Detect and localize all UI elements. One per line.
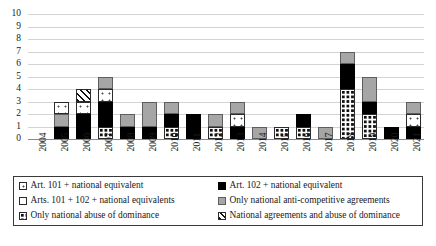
x-axis-tick-label: 2019 bbox=[369, 133, 379, 152]
stacked-bar[interactable] bbox=[76, 89, 91, 139]
bar-segment-art101[interactable] bbox=[230, 114, 245, 127]
bar-segment-art102[interactable] bbox=[164, 114, 179, 127]
x-label-slot: 2014 bbox=[248, 141, 270, 175]
x-label-slot: 2013 bbox=[226, 141, 248, 175]
legend-item-agree[interactable]: Only national anti-competitive agreement… bbox=[218, 194, 417, 209]
x-axis-tick-label: 2013 bbox=[237, 133, 247, 152]
legend-swatch-art102 bbox=[218, 182, 226, 190]
bar-segment-art102[interactable] bbox=[296, 114, 311, 127]
x-axis-tick-label: 2014 bbox=[259, 133, 269, 152]
bar-slot-2009 bbox=[138, 14, 160, 139]
x-label-slot: 2011 bbox=[182, 141, 204, 175]
x-label-slot: 2007 bbox=[94, 141, 116, 175]
bar-segment-agree[interactable] bbox=[54, 114, 69, 127]
bar-segment-agree[interactable] bbox=[406, 102, 421, 115]
plot-area bbox=[28, 14, 424, 139]
legend-item-arts[interactable]: Arts. 101 + 102 + national equivalents bbox=[19, 194, 218, 209]
x-axis-tick-label: 2004 bbox=[39, 133, 49, 152]
x-label-slot: 2018 bbox=[336, 141, 358, 175]
x-axis-tick-label: 2005 bbox=[61, 133, 71, 152]
bar-segment-agree[interactable] bbox=[98, 77, 113, 90]
bar-slot-2007 bbox=[94, 14, 116, 139]
legend-label: Only national abuse of dominance bbox=[31, 211, 160, 220]
bar-segment-agree[interactable] bbox=[340, 52, 355, 65]
chart-root: 012345678910 200420052006200720082009201… bbox=[0, 0, 436, 246]
bar-segment-art102[interactable] bbox=[340, 64, 355, 89]
bar-slot-2017 bbox=[314, 14, 336, 139]
legend-swatch-abuse bbox=[19, 212, 27, 220]
x-axis-tick-label: 2015 bbox=[281, 133, 291, 152]
legend-swatch-art101 bbox=[19, 182, 27, 190]
y-axis-tick-label: 7 bbox=[16, 47, 21, 57]
bar-segment-art101[interactable] bbox=[54, 102, 69, 115]
legend-item-art102[interactable]: Art. 102 + national equivalent bbox=[218, 179, 417, 194]
bar-segment-abuse[interactable] bbox=[340, 89, 355, 139]
legend-label: Art. 102 + national equivalent bbox=[230, 181, 343, 190]
legend-swatch-agree bbox=[218, 197, 226, 205]
x-axis-tick-label: 2020 bbox=[391, 133, 401, 152]
stacked-bar[interactable] bbox=[362, 77, 377, 140]
y-axis-tick-label: 3 bbox=[16, 97, 21, 107]
chart-legend: Art. 101 + national equivalentArt. 102 +… bbox=[13, 176, 423, 226]
x-axis-tick-label: 2008 bbox=[127, 133, 137, 152]
y-axis-tick-label: 5 bbox=[16, 72, 21, 82]
y-axis-tick-label: 9 bbox=[16, 22, 21, 32]
stacked-bar[interactable] bbox=[98, 77, 113, 140]
x-axis-tick-label: 2011 bbox=[193, 133, 203, 152]
bar-slot-2004 bbox=[28, 14, 50, 139]
y-axis-tick-label: 0 bbox=[16, 134, 21, 144]
bar-slot-2011 bbox=[182, 14, 204, 139]
bar-segment-art102[interactable] bbox=[362, 102, 377, 115]
bar-slot-2018 bbox=[336, 14, 358, 139]
bar-slot-2015 bbox=[270, 14, 292, 139]
bar-segment-agree[interactable] bbox=[230, 102, 245, 115]
bar-segment-art101[interactable] bbox=[98, 89, 113, 102]
legend-label: Art. 101 + national equivalent bbox=[31, 181, 144, 190]
bar-segment-agree[interactable] bbox=[208, 114, 223, 127]
bar-slot-2014 bbox=[248, 14, 270, 139]
x-label-slot: 2006 bbox=[72, 141, 94, 175]
bar-slot-2013 bbox=[226, 14, 248, 139]
x-label-slot: 2017 bbox=[314, 141, 336, 175]
bar-segment-hatch[interactable] bbox=[76, 89, 91, 102]
bar-slot-2008 bbox=[116, 14, 138, 139]
legend-label: National agreements and abuse of dominan… bbox=[230, 211, 401, 220]
legend-item-abuse[interactable]: Only national abuse of dominance bbox=[19, 209, 218, 224]
x-label-slot: 2008 bbox=[116, 141, 138, 175]
legend-item-art101[interactable]: Art. 101 + national equivalent bbox=[19, 179, 218, 194]
bar-segment-art102[interactable] bbox=[98, 102, 113, 127]
bar-segment-art101[interactable] bbox=[76, 102, 91, 115]
x-axis-tick-label: 2006 bbox=[83, 133, 93, 152]
x-axis-labels: 2004200520062007200820092010201120122013… bbox=[28, 141, 424, 175]
x-axis-tick-label: 2010 bbox=[171, 133, 181, 152]
x-label-slot: 2012 bbox=[204, 141, 226, 175]
bar-segment-agree[interactable] bbox=[164, 102, 179, 115]
bar-slot-2012 bbox=[204, 14, 226, 139]
bar-slot-2005 bbox=[50, 14, 72, 139]
x-label-slot: 2009 bbox=[138, 141, 160, 175]
bar-slot-2016 bbox=[292, 14, 314, 139]
y-axis-tick-label: 8 bbox=[16, 34, 21, 44]
y-axis-labels: 012345678910 bbox=[0, 14, 24, 139]
y-axis-tick-label: 1 bbox=[16, 122, 21, 132]
x-label-slot: 2021 bbox=[402, 141, 424, 175]
y-axis-tick-label: 10 bbox=[12, 9, 22, 19]
x-label-slot: 2019 bbox=[358, 141, 380, 175]
x-label-slot: 2005 bbox=[50, 141, 72, 175]
bar-segment-agree[interactable] bbox=[362, 77, 377, 102]
legend-item-hatch[interactable]: National agreements and abuse of dominan… bbox=[218, 209, 417, 224]
x-label-slot: 2010 bbox=[160, 141, 182, 175]
x-axis-tick-label: 2018 bbox=[347, 133, 357, 152]
y-axis-tick-label: 4 bbox=[16, 84, 21, 94]
stacked-bar[interactable] bbox=[340, 52, 355, 140]
x-label-slot: 2004 bbox=[28, 141, 50, 175]
legend-swatch-arts bbox=[19, 197, 27, 205]
legend-swatch-hatch bbox=[218, 212, 226, 220]
bar-segment-agree[interactable] bbox=[142, 102, 157, 127]
bar-segment-art101[interactable] bbox=[406, 114, 421, 127]
y-axis-tick-label: 2 bbox=[16, 109, 21, 119]
bar-slot-2021 bbox=[402, 14, 424, 139]
bar-slot-2020 bbox=[380, 14, 402, 139]
x-label-slot: 2015 bbox=[270, 141, 292, 175]
bar-segment-agree[interactable] bbox=[120, 114, 135, 127]
